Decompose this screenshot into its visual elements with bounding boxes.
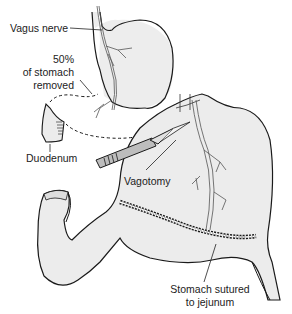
original-stomach <box>92 6 174 118</box>
label-sutured-line1: Stomach sutured <box>162 283 258 295</box>
label-removed-line2: of stomach <box>14 66 74 78</box>
label-removed-line3: removed <box>14 79 74 91</box>
label-vagus-nerve: Vagus nerve <box>10 22 68 34</box>
label-sutured-line2: to jejunum <box>162 296 258 308</box>
label-vagotomy: Vagotomy <box>124 175 171 187</box>
diagram-canvas: Vagus nerve 50% of stomach removed Duode… <box>0 0 292 314</box>
label-removed-line1: 50% <box>30 53 74 65</box>
remaining-stomach <box>38 94 280 300</box>
duodenum-stump <box>42 104 64 142</box>
label-duodenum: Duodenum <box>26 152 77 164</box>
